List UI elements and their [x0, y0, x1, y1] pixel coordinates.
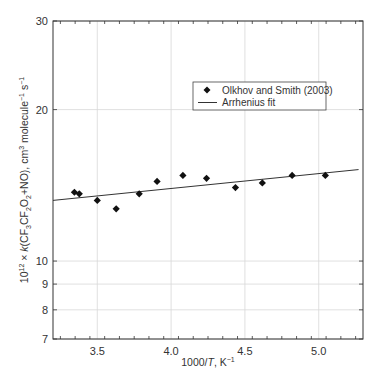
- y-tick-label: 10: [36, 255, 48, 267]
- arrhenius-fit-line: [53, 170, 359, 201]
- data-point-diamond: [259, 179, 266, 186]
- data-point-diamond: [179, 172, 186, 179]
- y-tick-labels: 789102030: [36, 15, 48, 345]
- data-point-diamond: [94, 197, 101, 204]
- x-tick-label: 3.5: [90, 345, 105, 357]
- arrhenius-chart: 3.54.04.55.0 789102030 Olkhov and Smith …: [0, 0, 379, 389]
- data-point-diamond: [203, 175, 210, 182]
- data-points: [71, 172, 329, 213]
- legend: Olkhov and Smith (2003) Arrhenius fit: [193, 82, 333, 110]
- y-tick-label: 20: [36, 104, 48, 116]
- legend-label-fit: Arrhenius fit: [222, 97, 276, 108]
- data-point-diamond: [153, 178, 160, 185]
- x-tick-label: 4.5: [237, 345, 252, 357]
- y-tick-label: 9: [42, 278, 48, 290]
- data-point-diamond: [289, 172, 296, 179]
- x-tick-label: 4.0: [163, 345, 178, 357]
- y-tick-label: 7: [42, 333, 48, 345]
- legend-label-data: Olkhov and Smith (2003): [222, 85, 333, 96]
- data-point-diamond: [113, 205, 120, 212]
- y-tick-label: 30: [36, 15, 48, 27]
- fit-line: [53, 170, 359, 201]
- data-point-diamond: [232, 184, 239, 191]
- y-tick-label: 8: [42, 304, 48, 316]
- x-tick-label: 5.0: [311, 345, 326, 357]
- x-axis-title: 1000/T, K−1: [181, 356, 235, 368]
- y-axis-title: 1012 × k(CF3CF2O2+NO), cm3 molecule−1 s−…: [18, 77, 32, 283]
